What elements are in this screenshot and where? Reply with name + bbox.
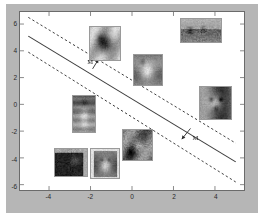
x-tick-label: 4 [214, 193, 217, 200]
thumbnail-image [200, 87, 231, 119]
y-tick-label: 2 [14, 74, 17, 81]
x-tick-label: -4 [46, 193, 51, 200]
x-tick-label: -2 [87, 193, 92, 200]
figure-canvas: -6-4-20246 -4-2024 MM [0, 0, 267, 224]
thumbnail-landscape [180, 18, 222, 43]
y-tick-label: -4 [12, 155, 17, 162]
y-tick-label: -2 [12, 128, 17, 135]
plot-axes: MM [19, 11, 245, 191]
thumbnail-white-kitten [90, 148, 120, 179]
x-axis-tick-labels: -4-2024 [19, 193, 245, 205]
thumbnail-image [134, 55, 162, 85]
y-tick-label: 6 [14, 20, 17, 27]
y-axis-tick-labels: -6-4-20246 [2, 11, 17, 191]
y-tick-label: -6 [12, 182, 17, 189]
thumbnail-bulldog [199, 86, 232, 120]
y-tick-label: 4 [14, 47, 17, 54]
y-tick-label: 0 [14, 101, 17, 108]
thumbnail-black-cat [54, 148, 88, 177]
margin-label-upper: M [87, 58, 93, 65]
thumbnail-sitting-cat [72, 95, 96, 133]
thumbnail-image [55, 149, 87, 176]
thumbnail-image [123, 130, 152, 160]
thumbnail-light-cat [133, 54, 163, 86]
thumbnail-cat-face [122, 129, 153, 161]
thumbnail-image [181, 19, 221, 42]
thumbnail-image [91, 149, 119, 178]
thumbnail-image [73, 96, 95, 132]
thumbnail-image [90, 27, 120, 60]
thumbnail-dark-dog [89, 26, 121, 61]
x-tick-label: 0 [130, 193, 133, 200]
x-tick-label: 2 [172, 193, 175, 200]
margin-label-lower: M [192, 134, 198, 141]
